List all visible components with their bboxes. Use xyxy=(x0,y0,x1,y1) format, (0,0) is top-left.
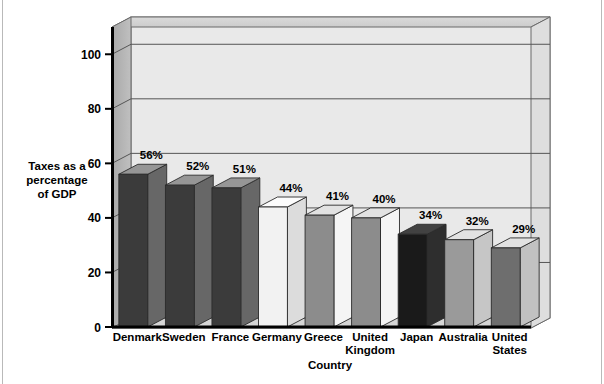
y-tick-label-60: 60 xyxy=(88,157,102,171)
bar-side-face xyxy=(194,175,213,327)
bar-front-face xyxy=(212,188,241,327)
bar-australia xyxy=(445,230,493,327)
value-label-japan: 34% xyxy=(419,209,442,221)
figure-canvas: 020406080100 56%52%51%44%41%40%34%32%29%… xyxy=(0,0,604,384)
bar-chart-3d: 020406080100 56%52%51%44%41%40%34%32%29%… xyxy=(0,0,604,384)
category-label-united-states: United xyxy=(492,331,528,343)
value-label-france: 51% xyxy=(233,163,256,175)
value-label-greece: 41% xyxy=(326,190,349,202)
category-label-denmark: Denmark xyxy=(113,331,163,343)
category-label-united-states: States xyxy=(492,344,527,356)
bar-front-face xyxy=(398,234,427,327)
bar-front-face xyxy=(305,215,334,327)
y-tick-label-100: 100 xyxy=(81,48,101,62)
value-label-united-states: 29% xyxy=(512,223,535,235)
bar-side-face xyxy=(241,178,260,327)
category-label-sweden: Sweden xyxy=(162,331,205,343)
category-label-japan: Japan xyxy=(400,331,433,343)
category-label-united-kingdom: Kingdom xyxy=(345,344,395,356)
y-tick-label-0: 0 xyxy=(94,321,101,335)
y-axis-title-line: Taxes as a xyxy=(28,160,86,172)
y-tick-label-20: 20 xyxy=(88,266,102,280)
bar-greece xyxy=(305,205,353,327)
plot-top-face xyxy=(112,17,550,27)
y-tick-label-80: 80 xyxy=(88,102,102,116)
bar-united-states xyxy=(491,238,539,327)
bar-side-face xyxy=(148,164,167,327)
bar-sweden xyxy=(165,175,213,327)
bar-front-face xyxy=(165,185,194,327)
value-label-sweden: 52% xyxy=(186,160,209,172)
value-label-germany: 44% xyxy=(279,182,302,194)
y-axis-title-line: of GDP xyxy=(38,188,77,200)
y-axis-ticks: 020406080100 xyxy=(81,48,112,335)
bar-side-face xyxy=(427,224,446,327)
bar-front-face xyxy=(445,240,474,327)
bar-japan xyxy=(398,224,446,327)
y-axis-title: Taxes as apercentageof GDP xyxy=(26,160,87,200)
bar-france xyxy=(212,178,260,327)
value-label-australia: 32% xyxy=(466,215,489,227)
y-axis-title-line: percentage xyxy=(26,174,87,186)
y-tick-label-40: 40 xyxy=(88,211,102,225)
category-labels: DenmarkSwedenFranceGermanyGreeceUnitedKi… xyxy=(113,331,528,356)
category-label-germany: Germany xyxy=(252,331,302,343)
bar-side-face xyxy=(287,197,306,327)
bar-denmark xyxy=(119,164,167,327)
bar-side-face xyxy=(380,208,399,327)
bar-front-face xyxy=(352,218,381,327)
category-label-greece: Greece xyxy=(304,331,343,343)
category-label-australia: Australia xyxy=(439,331,489,343)
x-axis-title-text: Country xyxy=(308,359,353,371)
bar-germany xyxy=(259,197,307,327)
category-label-france: France xyxy=(212,331,250,343)
bar-side-face xyxy=(520,238,539,327)
bar-side-face xyxy=(474,230,493,327)
bar-united-kingdom xyxy=(352,208,400,327)
value-label-denmark: 56% xyxy=(140,149,163,161)
category-label-united-kingdom: United xyxy=(352,331,388,343)
bar-front-face xyxy=(259,207,288,327)
bar-front-face xyxy=(119,174,148,327)
value-label-united-kingdom: 40% xyxy=(373,193,396,205)
bar-side-face xyxy=(334,205,353,327)
bar-front-face xyxy=(491,248,520,327)
